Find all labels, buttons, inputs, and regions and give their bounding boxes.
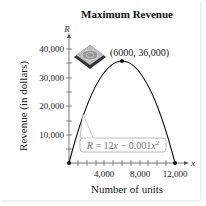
x-axis-label: Number of units: [91, 183, 163, 195]
equation-callout: R = 12x − 0.001x2: [80, 114, 166, 152]
x-axis-variable: x: [190, 158, 195, 168]
y-axis-label: Revenue (in dollars): [17, 61, 30, 151]
data-point-origin: [67, 161, 71, 165]
y-axis-variable: R: [63, 24, 70, 34]
maximum-icon: [74, 45, 106, 69]
y-tick-label: 10,000: [39, 130, 64, 140]
x-tick-label: 8,000: [130, 169, 151, 179]
y-tick-label: 20,000: [39, 101, 64, 111]
data-point-end: [173, 161, 177, 165]
y-tick-label: 40,000: [39, 44, 64, 54]
x-tick-label: 4,000: [94, 169, 115, 179]
equation-label: R = 12x − 0.001x2: [86, 139, 160, 151]
chart-title: Maximum Revenue: [81, 8, 173, 20]
x-tick-label: 12,000: [163, 169, 188, 179]
data-point-max: [120, 59, 124, 63]
x-axis-arrow-icon: [184, 161, 189, 165]
peak-label: (6000, 36,000): [110, 47, 169, 59]
y-tick-label: 30,000: [39, 73, 64, 83]
revenue-chart: Maximum Revenue R 10,000 20,000 30,000 4…: [0, 0, 206, 206]
